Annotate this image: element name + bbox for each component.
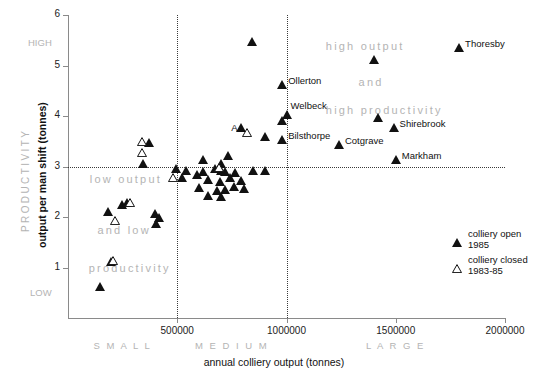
data-point-closed: [110, 216, 120, 225]
data-point-label: A: [231, 122, 237, 133]
data-point-open: [151, 219, 161, 228]
data-point-open: [138, 159, 148, 168]
y-tick: [63, 66, 68, 67]
legend: colliery open 1985 colliery closed 1983-…: [452, 228, 546, 280]
data-point-open: [369, 55, 379, 64]
legend-closed-line2: 1983-85: [468, 265, 503, 276]
data-point-open: [277, 135, 287, 144]
data-point-closed: [137, 148, 147, 157]
legend-label-open: colliery open 1985: [468, 228, 521, 250]
data-point-open: [225, 173, 235, 182]
x-tick: [287, 318, 288, 323]
x-tick: [177, 318, 178, 323]
colliery-scatter-chart: 123456500000100000015000002000000 high o…: [0, 0, 548, 380]
zone-annotation: and low: [97, 224, 150, 236]
y-tick: [63, 268, 68, 269]
data-point-open: [203, 191, 213, 200]
data-point-open: [239, 184, 249, 193]
data-point-label: Welbeck: [291, 100, 327, 111]
data-point-closed: [214, 163, 224, 172]
data-point-open: [103, 207, 113, 216]
x-tick-label: 2000000: [470, 325, 540, 336]
data-point-open: [260, 132, 270, 141]
data-point-closed: [137, 137, 147, 146]
y-axis-low-label: LOW: [30, 287, 52, 298]
data-point-open: [198, 155, 208, 164]
size-band-label: L A R G E: [336, 340, 456, 351]
data-point-label: Cotgrave: [345, 135, 384, 146]
x-tick-label: 500000: [142, 325, 212, 336]
size-band-label: S M A L L: [63, 340, 183, 351]
legend-label-closed: colliery closed 1983-85: [468, 254, 528, 276]
x-axis-title: annual colliery output (tonnes): [0, 356, 548, 368]
zone-annotation: and: [359, 76, 384, 88]
legend-open-line2: 1985: [468, 239, 489, 250]
data-point-label: Markham: [402, 150, 442, 161]
data-point-open: [229, 182, 239, 191]
legend-open-line1: colliery open: [468, 228, 521, 239]
data-point-open: [373, 113, 383, 122]
x-tick: [396, 318, 397, 323]
zone-annotation: high output: [326, 40, 405, 52]
data-point-open: [95, 282, 105, 291]
zone-annotation: productivity: [89, 262, 171, 274]
y-tick: [63, 15, 68, 16]
y-axis-title: output per man shift (tonnes): [36, 102, 48, 248]
data-point-label: Shirebrook: [400, 118, 446, 129]
data-point-label: Thoresby: [465, 38, 505, 49]
data-point-open: [248, 166, 258, 175]
hollow-triangle-icon: [452, 259, 462, 277]
data-point-open: [277, 80, 287, 89]
y-tick-label: 1: [38, 261, 60, 272]
horizontal-reference-line: [68, 167, 505, 168]
data-point-open: [391, 155, 401, 164]
legend-entry-closed: colliery closed 1983-85: [452, 254, 546, 276]
data-point-closed: [242, 128, 252, 137]
y-tick: [63, 217, 68, 218]
data-point-closed: [168, 173, 178, 182]
data-point-open: [260, 166, 270, 175]
x-tick-label: 1500000: [361, 325, 431, 336]
data-point-open: [171, 164, 181, 173]
x-tick-label: 1000000: [252, 325, 322, 336]
data-point-open: [277, 116, 287, 125]
data-point-open: [389, 123, 399, 132]
y-tick-label: 6: [38, 8, 60, 19]
y-tick: [63, 116, 68, 117]
legend-entry-open: colliery open 1985: [452, 228, 546, 250]
size-band-label: M E D I U M: [172, 340, 292, 351]
data-point-label: Bilsthorpe: [288, 130, 330, 141]
zone-annotation: high productivity: [326, 104, 443, 116]
data-point-open: [334, 140, 344, 149]
data-point-label: Ollerton: [288, 75, 321, 86]
y-tick-label: 5: [38, 59, 60, 70]
data-point-closed: [125, 198, 135, 207]
zone-annotation: low output: [90, 173, 162, 185]
data-point-open: [216, 192, 226, 201]
data-point-closed: [108, 256, 118, 265]
y-axis-supertitle: PRODUCTIVITY: [20, 129, 31, 232]
data-point-open: [192, 170, 202, 179]
data-point-open: [203, 175, 213, 184]
data-point-open: [247, 37, 257, 46]
data-point-open: [454, 43, 464, 52]
filled-triangle-icon: [452, 233, 462, 251]
x-tick: [505, 318, 506, 323]
data-point-open: [177, 173, 187, 182]
y-axis-high-label: HIGH: [28, 37, 52, 48]
legend-closed-line1: colliery closed: [468, 254, 528, 265]
